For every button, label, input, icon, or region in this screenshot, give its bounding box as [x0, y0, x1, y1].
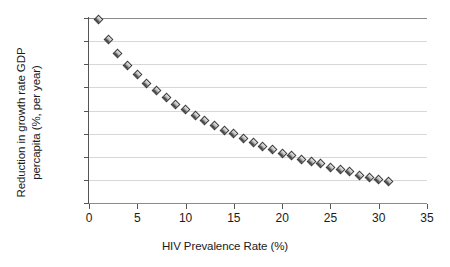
x-axis-tick-label: 0: [69, 211, 109, 225]
gridline-y: [89, 157, 427, 158]
y-axis-tick: [84, 111, 89, 112]
gridline-y: [89, 18, 427, 19]
x-axis-tick: [186, 204, 187, 209]
y-axis-tick: [84, 64, 89, 65]
data-point: [210, 121, 220, 131]
data-point: [132, 70, 142, 80]
y-axis-tick: [84, 18, 89, 19]
gridline-y: [89, 134, 427, 135]
y-axis-title: Reduction in growth rate GDP percapita (…: [14, 23, 43, 223]
data-point: [229, 129, 239, 139]
data-point: [200, 116, 210, 126]
data-point: [103, 35, 113, 45]
data-point: [258, 141, 268, 151]
x-axis-tick: [282, 204, 283, 209]
x-axis-tick-label: 25: [310, 211, 350, 225]
x-axis-tick-label: 35: [407, 211, 447, 225]
x-axis-tick: [137, 204, 138, 209]
y-axis-title-line-1: Reduction in growth rate GDP: [14, 23, 29, 223]
x-axis-tick-label: 20: [262, 211, 302, 225]
x-axis-tick: [330, 204, 331, 209]
data-point: [297, 154, 307, 164]
x-axis-tick-label: 30: [359, 211, 399, 225]
data-point: [325, 162, 335, 172]
data-point: [364, 173, 374, 183]
data-point: [190, 110, 200, 120]
chart-figure: Reduction in growth rate GDP percapita (…: [0, 0, 450, 267]
x-axis-tick: [379, 204, 380, 209]
x-axis-tick: [427, 204, 428, 209]
y-axis-title-line-2: percapita (%, per year): [28, 23, 43, 223]
data-point: [113, 49, 123, 59]
y-axis-tick: [84, 157, 89, 158]
gridline-y: [89, 41, 427, 42]
y-axis-tick: [84, 180, 89, 181]
data-point: [123, 60, 133, 70]
data-point: [181, 104, 191, 114]
y-axis-tick: [84, 41, 89, 42]
gridline-y: [89, 87, 427, 88]
x-axis-tick-label: 5: [117, 211, 157, 225]
data-point: [383, 176, 393, 186]
data-point: [171, 100, 181, 110]
data-point: [161, 93, 171, 103]
y-axis-tick: [84, 134, 89, 135]
data-point: [94, 14, 104, 24]
data-point: [354, 170, 364, 180]
x-axis-title: HIV Prevalence Rate (%): [0, 240, 450, 252]
data-point: [345, 167, 355, 177]
x-axis-tick: [89, 204, 90, 209]
data-point: [268, 145, 278, 155]
x-axis-tick: [234, 204, 235, 209]
gridline-y: [89, 203, 427, 204]
gridline-y: [89, 111, 427, 112]
y-axis-tick: [84, 87, 89, 88]
x-axis-tick-label: 15: [214, 211, 254, 225]
x-axis-tick-label: 10: [166, 211, 206, 225]
data-point: [306, 156, 316, 166]
data-point: [335, 165, 345, 175]
gridline-y: [89, 64, 427, 65]
data-point: [239, 133, 249, 143]
plot-area: [89, 18, 427, 203]
data-point: [374, 175, 384, 185]
